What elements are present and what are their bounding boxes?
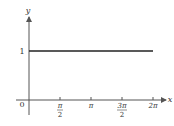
x-tick-half-pi-num: π	[57, 102, 63, 110]
y-tick-1: 1	[19, 47, 24, 56]
y-axis-label: y	[25, 6, 31, 15]
x-tick-two-pi: 2π	[147, 102, 157, 110]
x-tick-three-half-pi-den: 2	[120, 111, 124, 119]
x-tick-0: 0	[19, 100, 24, 109]
x-tick-three-half-pi-num: 3π	[117, 102, 126, 110]
x-tick-half-pi-den: 2	[58, 111, 62, 119]
chart: y x 1 0 π 2 π 3π 2 2π	[0, 0, 174, 126]
x-tick-pi: π	[88, 102, 94, 110]
x-axis-label: x	[168, 95, 173, 104]
